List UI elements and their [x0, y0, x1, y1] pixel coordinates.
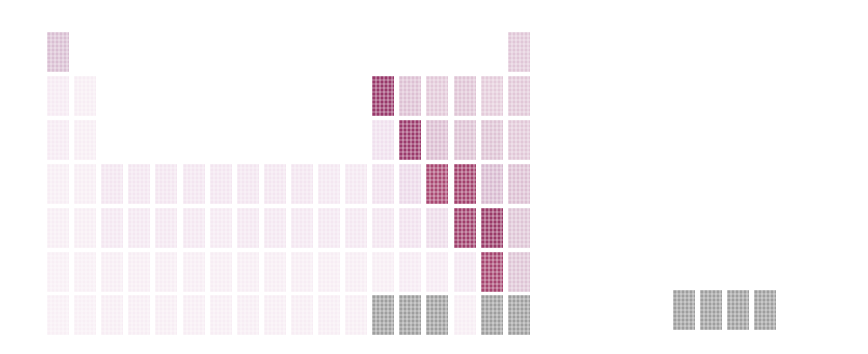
- heatmap-cell-sn: [399, 208, 421, 248]
- heatmap-cell-w: [183, 252, 205, 292]
- heatmap-cell-hg: [345, 252, 367, 292]
- heatmap-cell-f: [481, 76, 503, 116]
- heatmap-cell-s: [454, 120, 476, 160]
- heatmap-cell-rf: [128, 295, 150, 335]
- heatmap-cell-i: [481, 208, 503, 248]
- heatmap-cell-fr: [47, 295, 69, 335]
- heatmap-cell-k: [47, 164, 69, 204]
- heatmap-cell-ag: [318, 208, 340, 248]
- heatmap-cell-og: [508, 295, 530, 335]
- heatmap-cell-nb: [155, 208, 177, 248]
- heatmap-cell-ar: [508, 120, 530, 160]
- heatmap-cell-fl: [399, 295, 421, 335]
- heatmap-cell-pt: [291, 252, 313, 292]
- heatmap-cell-xe: [508, 208, 530, 248]
- heatmap-cell-mt: [264, 295, 286, 335]
- heatmap-cell-ac: [101, 295, 123, 335]
- heatmap-cell-rn: [508, 252, 530, 292]
- heatmap-cell-be: [74, 76, 96, 116]
- heatmap-cell-ds: [291, 295, 313, 335]
- heatmap-cell-ti: [128, 164, 150, 204]
- heatmap-cell-ni: [291, 164, 313, 204]
- heatmap-cell-rb: [47, 208, 69, 248]
- heatmap-cell-na: [47, 120, 69, 160]
- heatmap-cell-db: [155, 295, 177, 335]
- heatmap-cell-x13-7b: [673, 290, 695, 330]
- heatmap-cell-cu: [318, 164, 340, 204]
- heatmap-cell-pd: [291, 208, 313, 248]
- heatmap-cell-ts: [481, 295, 503, 335]
- heatmap-cell-v: [155, 164, 177, 204]
- heatmap-cell-sc: [101, 164, 123, 204]
- heatmap-cell-ge: [399, 164, 421, 204]
- heatmap-cell-os: [237, 252, 259, 292]
- heatmap-cell-zn: [345, 164, 367, 204]
- heatmap-cell-o: [454, 76, 476, 116]
- heatmap-cell-tl: [372, 252, 394, 292]
- heatmap-cell-rh: [264, 208, 286, 248]
- heatmap-cell-cs: [47, 252, 69, 292]
- heatmap-cell-br: [481, 164, 503, 204]
- heatmap-cell-h: [47, 32, 69, 72]
- heatmap-cell-bi: [426, 252, 448, 292]
- heatmap-cell-in: [372, 208, 394, 248]
- heatmap-cell-la: [101, 252, 123, 292]
- heatmap-cell-lv: [454, 295, 476, 335]
- heatmap-cell-fe: [237, 164, 259, 204]
- heatmap-cell-al: [372, 120, 394, 160]
- heatmap-cell-p: [426, 120, 448, 160]
- heatmap-cell-kr: [508, 164, 530, 204]
- heatmap-cell-cd: [345, 208, 367, 248]
- heatmap-cell-n: [426, 76, 448, 116]
- heatmap-cell-po: [454, 252, 476, 292]
- heatmap-cell-si: [399, 120, 421, 160]
- heatmap-cell-he: [508, 32, 530, 72]
- heatmap-cell-cl: [481, 120, 503, 160]
- heatmap-cell-x15-7b: [727, 290, 749, 330]
- heatmap-cell-co: [264, 164, 286, 204]
- heatmap-cell-sb: [426, 208, 448, 248]
- heatmap-cell-hs: [237, 295, 259, 335]
- heatmap-cell-sr: [74, 208, 96, 248]
- heatmap-cell-ru: [237, 208, 259, 248]
- heatmap-cell-tc: [210, 208, 232, 248]
- heatmap-cell-ir: [264, 252, 286, 292]
- heatmap-cell-ra: [74, 295, 96, 335]
- heatmap-cell-y: [101, 208, 123, 248]
- heatmap-cell-x14-7b: [700, 290, 722, 330]
- heatmap-cell-re: [210, 252, 232, 292]
- heatmap-cell-cr: [183, 164, 205, 204]
- heatmap-cell-li: [47, 76, 69, 116]
- periodic-table-heatmap: [0, 0, 868, 354]
- heatmap-cell-ba: [74, 252, 96, 292]
- heatmap-cell-c: [399, 76, 421, 116]
- heatmap-cell-hf: [128, 252, 150, 292]
- heatmap-cell-ca: [74, 164, 96, 204]
- heatmap-cell-b: [372, 76, 394, 116]
- heatmap-cell-ta: [155, 252, 177, 292]
- heatmap-cell-pb: [399, 252, 421, 292]
- heatmap-cell-ga: [372, 164, 394, 204]
- heatmap-cell-te: [454, 208, 476, 248]
- heatmap-cell-cn: [345, 295, 367, 335]
- heatmap-cell-se: [454, 164, 476, 204]
- heatmap-cell-sg: [183, 295, 205, 335]
- heatmap-cell-nh: [372, 295, 394, 335]
- heatmap-cell-bh: [210, 295, 232, 335]
- heatmap-cell-at: [481, 252, 503, 292]
- heatmap-cell-ne: [508, 76, 530, 116]
- heatmap-cell-au: [318, 252, 340, 292]
- heatmap-cell-mn: [210, 164, 232, 204]
- heatmap-cell-mc: [426, 295, 448, 335]
- heatmap-cell-as: [426, 164, 448, 204]
- heatmap-cell-mo: [183, 208, 205, 248]
- heatmap-cell-x16-7b: [754, 290, 776, 330]
- heatmap-cell-rg: [318, 295, 340, 335]
- heatmap-cell-mg: [74, 120, 96, 160]
- heatmap-cell-zr: [128, 208, 150, 248]
